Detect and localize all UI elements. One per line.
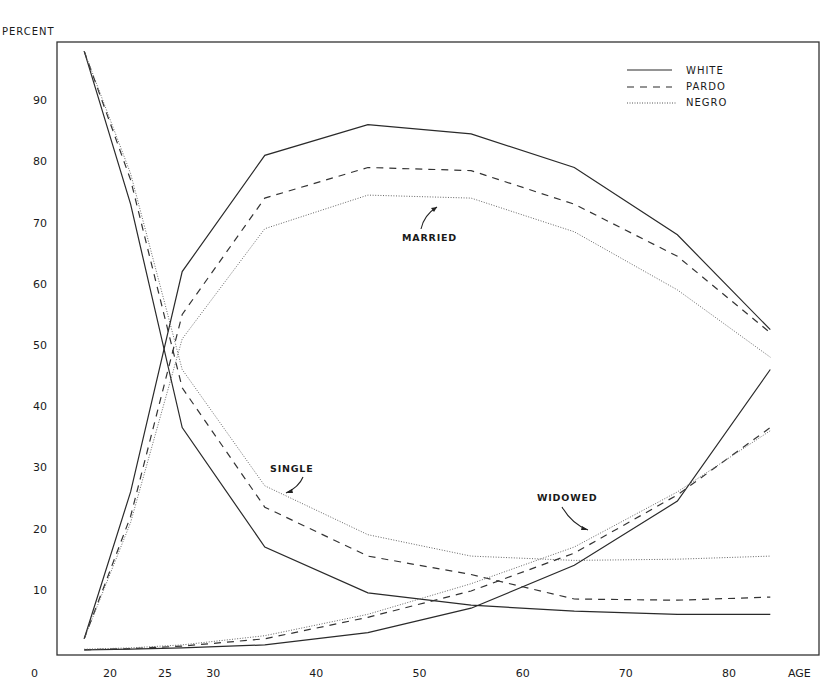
y-tick-label: 20 bbox=[33, 523, 47, 536]
y-axis-ticks: 102030405060708090 bbox=[33, 94, 47, 597]
plot-frame bbox=[57, 42, 819, 655]
y-axis-title: PERCENT bbox=[2, 26, 55, 37]
series-lines bbox=[84, 51, 770, 650]
series-line-married-negro bbox=[84, 195, 770, 639]
series-line-married-white bbox=[84, 125, 770, 639]
y-tick-label: 80 bbox=[33, 155, 47, 168]
y-tick-label: 70 bbox=[33, 217, 47, 230]
annotation-single-arrow-icon bbox=[286, 477, 303, 493]
x-tick-label: 60 bbox=[516, 667, 530, 680]
y-tick-label: 60 bbox=[33, 278, 47, 291]
annotation-widowed-arrow-icon bbox=[562, 507, 588, 530]
x-tick-label: 80 bbox=[722, 667, 736, 680]
legend-label-white: WHITE bbox=[686, 65, 724, 76]
y-tick-label: 10 bbox=[33, 584, 47, 597]
x-tick-label: 70 bbox=[619, 667, 633, 680]
annotation-widowed: WIDOWED bbox=[537, 492, 597, 530]
x-tick-label: 40 bbox=[309, 667, 323, 680]
arrowhead-icon bbox=[286, 489, 293, 493]
marital-status-chart: PERCENT AGE 0 102030405060708090 2025304… bbox=[0, 0, 837, 686]
annotation-married-label: MARRIED bbox=[402, 232, 457, 243]
y-tick-label: 90 bbox=[33, 94, 47, 107]
legend: WHITE PARDO NEGRO bbox=[627, 65, 727, 108]
arrowhead-icon bbox=[581, 526, 588, 530]
x-tick-label: 30 bbox=[206, 667, 220, 680]
y-tick-label: 40 bbox=[33, 400, 47, 413]
series-line-widowed-white bbox=[84, 370, 770, 650]
annotation-widowed-label: WIDOWED bbox=[537, 492, 597, 503]
x-tick-label: 25 bbox=[158, 667, 172, 680]
y-tick-label: 30 bbox=[33, 461, 47, 474]
x-tick-label: 20 bbox=[103, 667, 117, 680]
series-line-widowed-pardo bbox=[84, 428, 770, 650]
x-axis-title: AGE bbox=[788, 667, 811, 680]
x-axis-zero-label: 0 bbox=[31, 667, 38, 680]
annotation-single: SINGLE bbox=[270, 463, 313, 493]
series-line-single-white bbox=[84, 51, 770, 614]
legend-label-negro: NEGRO bbox=[686, 97, 727, 108]
x-axis-ticks: 2025304050607080 bbox=[103, 667, 736, 680]
x-tick-label: 50 bbox=[413, 667, 427, 680]
annotation-single-label: SINGLE bbox=[270, 463, 313, 474]
series-line-widowed-negro bbox=[84, 431, 770, 650]
series-line-single-pardo bbox=[84, 51, 770, 600]
series-line-single-negro bbox=[84, 51, 770, 560]
annotation-married: MARRIED bbox=[402, 207, 457, 243]
legend-label-pardo: PARDO bbox=[686, 81, 726, 92]
y-tick-label: 50 bbox=[33, 339, 47, 352]
